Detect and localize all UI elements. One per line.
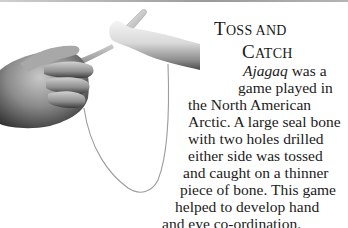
body-line-3: the North American: [188, 96, 311, 113]
document-page: TOSS AND CATCH Ajagaq was a game played …: [0, 0, 348, 228]
heading-cap-c: C: [242, 41, 255, 62]
body-line-1: Ajagaq was a: [243, 62, 327, 79]
heading-line-2: CATCH: [242, 43, 293, 62]
body-line-9: helped to develop hand: [175, 198, 319, 215]
term-ajagaq: Ajagaq: [243, 62, 288, 79]
body-line-7: and caught on a thinner: [183, 164, 328, 181]
body-line-4: Arctic. A large seal bone: [188, 113, 341, 130]
body-line-8: piece of bone. This game: [180, 181, 336, 198]
heading-cap-t: T: [214, 18, 226, 39]
heading-line-1: TOSS AND: [214, 20, 287, 39]
heading-rest-1: OSS AND: [226, 23, 287, 38]
heading-rest-2: ATCH: [255, 46, 293, 61]
body-line-6: either side was tossed: [188, 147, 323, 164]
body-text-1: was a: [288, 62, 327, 79]
body-line-10: and eye co-ordination.: [162, 215, 301, 228]
string-loop: [84, 64, 169, 192]
hand: [0, 46, 94, 129]
body-line-2: game played in: [238, 79, 333, 96]
body-line-5: with two holes drilled: [188, 130, 324, 147]
